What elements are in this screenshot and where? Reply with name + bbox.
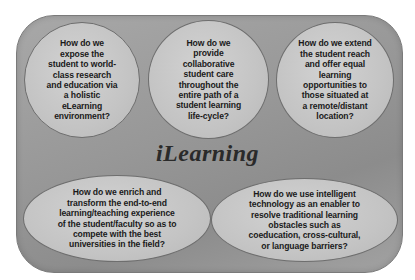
question-text: How do we use intelligent technology as … (249, 189, 361, 251)
diagram-title: iLearning (0, 140, 415, 167)
question-text: How do we provide collaborative student … (176, 38, 241, 121)
question-bubble-remote-reach: How do we extend the student reach and o… (276, 22, 394, 138)
question-bubble-collaborative-care: How do we provide collaborative student … (148, 20, 269, 139)
question-text: How do we extend the student reach and o… (298, 38, 371, 121)
question-text: How do we expose the student to world- c… (47, 38, 118, 121)
question-text: How do we enrich and transform the end-t… (58, 187, 177, 249)
question-bubble-intelligent-technology: How do we use intelligent technology as … (211, 178, 398, 262)
question-bubble-enrich-experience: How do we enrich and transform the end-t… (23, 175, 211, 262)
question-bubble-world-class-education: How do we expose the student to world- c… (24, 22, 140, 138)
